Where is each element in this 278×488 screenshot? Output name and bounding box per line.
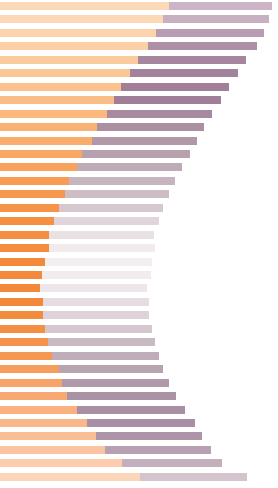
bar-row bbox=[0, 15, 269, 23]
bar-segment-series-b bbox=[163, 15, 269, 23]
bar-segment-series-a bbox=[0, 379, 62, 387]
bar-segment-series-a bbox=[0, 392, 67, 400]
bar-segment-series-a bbox=[0, 69, 130, 77]
bar-row bbox=[0, 29, 264, 37]
bar-segment-series-b bbox=[169, 2, 272, 10]
bar-segment-series-a bbox=[0, 271, 42, 279]
bar-segment-series-b bbox=[77, 406, 185, 414]
bar-row bbox=[0, 271, 151, 279]
bar-segment-series-b bbox=[42, 271, 151, 279]
bar-segment-series-a bbox=[0, 42, 148, 50]
bar-segment-series-b bbox=[140, 473, 247, 481]
bar-segment-series-b bbox=[59, 204, 163, 212]
bar-row bbox=[0, 298, 149, 306]
bar-row bbox=[0, 406, 185, 414]
bar-segment-series-b bbox=[45, 258, 152, 266]
bar-segment-series-b bbox=[148, 42, 257, 50]
bar-segment-series-a bbox=[0, 432, 96, 440]
bar-row bbox=[0, 110, 212, 118]
bar-segment-series-a bbox=[0, 231, 49, 239]
bar-segment-series-b bbox=[97, 123, 204, 131]
bar-row bbox=[0, 42, 257, 50]
bar-segment-series-a bbox=[0, 459, 122, 467]
bar-row bbox=[0, 311, 149, 319]
bar-row bbox=[0, 338, 155, 346]
bar-segment-series-b bbox=[138, 56, 246, 64]
bar-segment-series-b bbox=[48, 338, 155, 346]
bar-row bbox=[0, 473, 247, 481]
bar-segment-series-b bbox=[107, 110, 212, 118]
bar-segment-series-a bbox=[0, 217, 54, 225]
bar-segment-series-b bbox=[122, 459, 222, 467]
bar-segment-series-a bbox=[0, 311, 43, 319]
bar-segment-series-b bbox=[77, 163, 182, 171]
bar-row bbox=[0, 231, 154, 239]
bar-row bbox=[0, 352, 159, 360]
bar-segment-series-b bbox=[92, 137, 197, 145]
bar-row bbox=[0, 2, 272, 10]
bar-segment-series-b bbox=[114, 96, 221, 104]
bar-segment-series-a bbox=[0, 325, 45, 333]
bar-segment-series-a bbox=[0, 473, 140, 481]
bar-segment-series-b bbox=[130, 69, 238, 77]
bar-segment-series-b bbox=[156, 29, 264, 37]
bar-segment-series-b bbox=[40, 284, 147, 292]
bar-segment-series-b bbox=[49, 231, 154, 239]
bar-segment-series-a bbox=[0, 419, 87, 427]
bar-segment-series-a bbox=[0, 83, 121, 91]
bar-row bbox=[0, 392, 176, 400]
bar-row bbox=[0, 419, 195, 427]
bar-row bbox=[0, 217, 159, 225]
bar-row bbox=[0, 190, 169, 198]
stacked-bar-chart bbox=[0, 0, 278, 488]
bar-segment-series-a bbox=[0, 110, 107, 118]
bar-segment-series-b bbox=[65, 190, 169, 198]
bar-segment-series-a bbox=[0, 15, 163, 23]
bar-segment-series-b bbox=[121, 83, 229, 91]
bar-row bbox=[0, 365, 163, 373]
bar-row bbox=[0, 432, 202, 440]
bar-row bbox=[0, 258, 152, 266]
bar-segment-series-b bbox=[105, 446, 211, 454]
bar-segment-series-b bbox=[45, 325, 152, 333]
bar-row bbox=[0, 177, 175, 185]
bar-row bbox=[0, 150, 190, 158]
bar-segment-series-a bbox=[0, 244, 49, 252]
bar-segment-series-a bbox=[0, 137, 92, 145]
bar-segment-series-b bbox=[62, 379, 169, 387]
bar-segment-series-a bbox=[0, 150, 82, 158]
bar-row bbox=[0, 325, 152, 333]
bar-segment-series-a bbox=[0, 204, 59, 212]
bar-row bbox=[0, 379, 169, 387]
bar-segment-series-a bbox=[0, 298, 43, 306]
bar-segment-series-b bbox=[96, 432, 202, 440]
bar-row bbox=[0, 284, 147, 292]
bar-segment-series-b bbox=[82, 150, 190, 158]
bar-segment-series-a bbox=[0, 123, 97, 131]
bar-segment-series-b bbox=[49, 244, 155, 252]
bar-segment-series-a bbox=[0, 190, 65, 198]
bar-row bbox=[0, 56, 246, 64]
bar-segment-series-a bbox=[0, 338, 48, 346]
bar-segment-series-b bbox=[69, 177, 175, 185]
bar-row bbox=[0, 137, 197, 145]
bar-row bbox=[0, 96, 221, 104]
bar-segment-series-b bbox=[59, 365, 163, 373]
bar-segment-series-a bbox=[0, 29, 156, 37]
bar-segment-series-b bbox=[43, 311, 149, 319]
bar-segment-series-a bbox=[0, 56, 138, 64]
bar-row bbox=[0, 83, 229, 91]
bar-segment-series-a bbox=[0, 284, 40, 292]
bar-segment-series-a bbox=[0, 406, 77, 414]
bar-segment-series-a bbox=[0, 177, 69, 185]
bar-row bbox=[0, 446, 211, 454]
bar-row bbox=[0, 163, 182, 171]
bar-segment-series-a bbox=[0, 96, 114, 104]
bar-row bbox=[0, 204, 163, 212]
bar-segment-series-b bbox=[67, 392, 176, 400]
bar-segment-series-b bbox=[87, 419, 195, 427]
bar-segment-series-a bbox=[0, 163, 77, 171]
bar-segment-series-a bbox=[0, 365, 59, 373]
bar-segment-series-b bbox=[52, 352, 159, 360]
bar-row bbox=[0, 459, 222, 467]
